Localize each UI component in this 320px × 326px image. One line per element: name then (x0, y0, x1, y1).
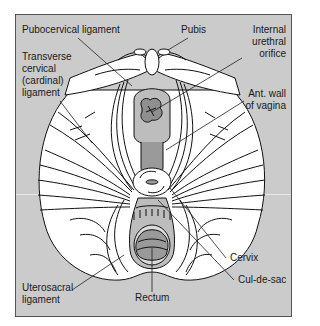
label-rectum: Rectum (135, 292, 169, 304)
label-line: Internal (252, 24, 286, 36)
label-transverse-cervical-ligament: Transverse cervical (cardinal) ligament (22, 51, 72, 99)
label-line: ligament (22, 87, 72, 99)
label-line: Transverse (22, 51, 72, 63)
pubis-left-wing (65, 54, 150, 95)
label-pubis: Pubis (181, 24, 206, 36)
label-line: (cardinal) (22, 75, 72, 87)
label-anterior-wall-of-vagina: Ant. wall of vagina (245, 88, 286, 112)
label-cervix: Cervix (230, 252, 258, 264)
pubis-right-wing (154, 54, 240, 95)
label-line: urethral (252, 36, 286, 48)
label-pubocervical-ligament: Pubocervical ligament (22, 24, 120, 36)
label-uterosacral-ligament: Uterosacral ligament (22, 282, 73, 306)
label-line: of vagina (245, 100, 286, 112)
label-internal-urethral-orifice: Internal urethral orifice (252, 24, 286, 60)
label-line: ligament (22, 294, 73, 306)
label-line: cervical (22, 63, 72, 75)
label-line: Ant. wall (245, 88, 286, 100)
label-cul-de-sac: Cul-de-sac (238, 274, 286, 286)
label-line: Uterosacral (22, 282, 73, 294)
pubic-symphysis (145, 49, 159, 75)
label-line: orifice (252, 48, 286, 60)
external-os (146, 180, 158, 184)
